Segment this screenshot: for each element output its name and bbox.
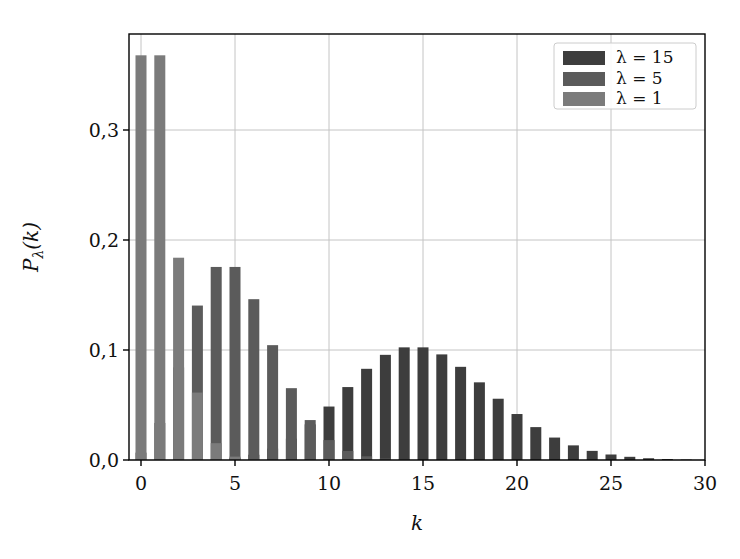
svg-text:Pλ(k): Pλ(k) [19, 222, 46, 273]
legend: λ = 15 λ = 5 λ = 1 [554, 43, 696, 109]
bar-series-1 [267, 345, 278, 460]
legend-label-lambda-1: λ = 1 [616, 88, 663, 108]
bar-series-0 [455, 367, 466, 460]
y-axis-ticks: 0,00,10,20,3 [89, 119, 129, 471]
poisson-bar-chart: 051015202530 0,00,10,20,3 k Pλ(k) λ = 15… [0, 0, 740, 559]
x-tick-label: 20 [505, 472, 529, 494]
y-axis-label-arg: (k) [19, 222, 43, 250]
bar-series-1 [230, 267, 241, 460]
y-axis-label: Pλ(k) [19, 222, 46, 273]
bar-series-0 [493, 399, 504, 460]
bar-series-0 [361, 369, 372, 460]
y-tick-label: 0,2 [89, 229, 119, 251]
bar-series-1 [248, 299, 259, 460]
y-axis-label-sub: λ [30, 250, 46, 260]
x-tick-label: 0 [135, 472, 147, 494]
bar-series-1 [211, 267, 222, 460]
legend-label-lambda-15: λ = 15 [616, 47, 673, 67]
bar-series-2 [136, 55, 147, 460]
bar-series-2 [211, 443, 222, 460]
bar-series-0 [512, 414, 523, 460]
bar-series-0 [342, 387, 353, 460]
bar-series-0 [606, 455, 617, 461]
x-axis-label: k [411, 511, 423, 535]
bar-series-2 [173, 258, 184, 460]
legend-swatch-lambda-15 [563, 51, 605, 65]
bar-series-0 [549, 438, 560, 460]
bar-series-0 [530, 427, 541, 460]
x-tick-label: 10 [317, 472, 341, 494]
bar-series-1 [305, 420, 316, 460]
bar-series-0 [418, 347, 429, 460]
bar-series-0 [436, 354, 447, 460]
bar-series-0 [399, 347, 410, 460]
x-tick-label: 5 [229, 472, 241, 494]
y-tick-label: 0,1 [89, 339, 119, 361]
bar-series-2 [154, 55, 165, 460]
bar-series-0 [380, 355, 391, 460]
x-tick-label: 15 [411, 472, 435, 494]
x-tick-label: 30 [693, 472, 717, 494]
bar-series-1 [324, 440, 335, 460]
bars [136, 55, 692, 460]
bar-series-1 [342, 451, 353, 460]
legend-swatch-lambda-5 [563, 72, 605, 86]
bar-series-2 [192, 393, 203, 460]
y-axis-label-main: P [19, 258, 43, 273]
x-axis-ticks: 051015202530 [135, 460, 717, 494]
y-tick-label: 0,0 [89, 449, 119, 471]
legend-swatch-lambda-1 [563, 92, 605, 106]
legend-label-lambda-5: λ = 5 [616, 68, 663, 88]
bar-series-0 [568, 445, 579, 460]
bar-series-0 [587, 451, 598, 460]
bar-series-0 [474, 382, 485, 460]
bar-series-1 [286, 388, 297, 460]
y-tick-label: 0,3 [89, 119, 119, 141]
x-tick-label: 25 [599, 472, 623, 494]
